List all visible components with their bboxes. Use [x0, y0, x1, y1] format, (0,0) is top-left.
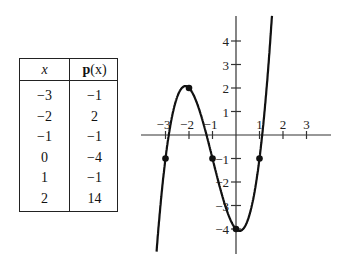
polynomial-graph: −3−2−11234321−1−2−3−4 — [0, 0, 344, 266]
y-tick-label: 3 — [223, 58, 230, 73]
x-tick-label: 2 — [280, 117, 287, 132]
data-point — [256, 155, 263, 162]
y-tick-label: 1 — [223, 105, 230, 120]
x-tick-label: −3 — [157, 117, 171, 132]
data-point — [162, 155, 169, 162]
data-point — [209, 155, 216, 162]
y-tick-label: −1 — [215, 152, 229, 167]
y-tick-label: −4 — [215, 222, 229, 237]
polynomial-curve — [157, 16, 272, 252]
y-tick-label: 2 — [223, 81, 230, 96]
data-point — [233, 226, 240, 233]
x-tick-label: 3 — [303, 117, 310, 132]
data-point — [186, 85, 193, 92]
x-tick-label: −2 — [180, 117, 194, 132]
y-tick-label: 4 — [223, 34, 230, 49]
